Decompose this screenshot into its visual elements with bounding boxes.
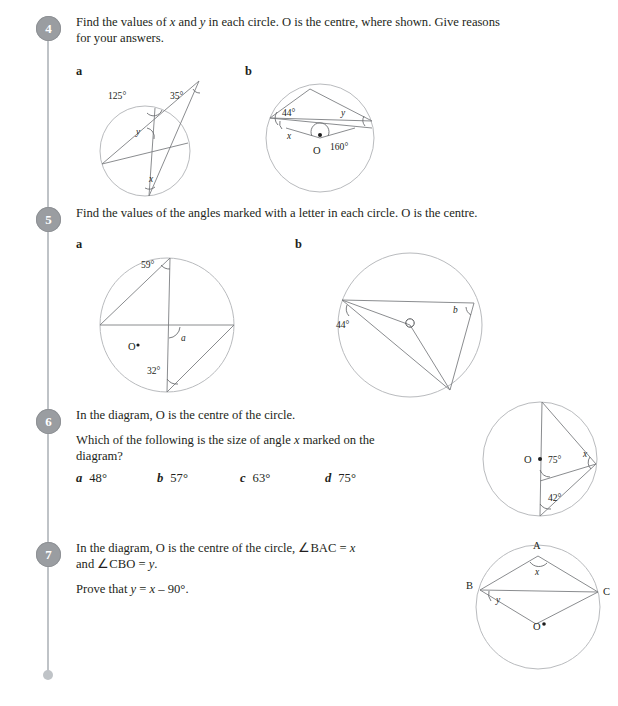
question-4a-label-35: 35° <box>170 90 184 101</box>
question-4b-centre-label: O <box>313 145 321 156</box>
option-d-value: 75° <box>338 471 356 485</box>
option-a-value: 48° <box>89 471 107 485</box>
question-5a-centre-label: O <box>128 341 136 352</box>
option-a-letter: a <box>76 471 82 485</box>
question-6-text-line-2: Which of the following is the size of an… <box>76 432 406 448</box>
question-5-text-line-1: Find the values of the angles marked wit… <box>76 205 576 221</box>
question-7-centre-label: O <box>533 621 541 632</box>
question-7-text-line-1: In the diagram, O is the centre of the c… <box>76 540 406 556</box>
question-7-label-y: y <box>495 595 501 605</box>
question-4-body: Find the values of x and y in each circl… <box>76 14 596 46</box>
question-6-label-x: x <box>582 449 588 459</box>
question-7-diagram: A B C x y O <box>463 527 618 687</box>
question-4b-label-44: 44° <box>282 107 296 118</box>
question-5-body: Find the values of the angles marked wit… <box>76 205 596 221</box>
question-5b-diagram: 44° b <box>322 233 507 413</box>
question-7-point-b: B <box>466 580 473 591</box>
question-5a-label-a: a <box>181 333 186 343</box>
left-rail-end-dot <box>43 670 53 680</box>
question-6-diagram: O 75° x 42° <box>478 391 618 531</box>
option-b[interactable]: b57° <box>157 471 188 486</box>
question-6-number: 6 <box>36 409 61 434</box>
option-c-letter: c <box>240 471 246 485</box>
question-6-label-42: 42° <box>548 492 562 503</box>
question-4b-label-y: y <box>340 108 346 118</box>
question-4-part-b-label: b <box>245 64 252 79</box>
question-7-number: 7 <box>36 542 61 567</box>
worksheet-page: 4 Find the values of x and y in each cir… <box>0 0 618 706</box>
question-7-text-line-3: Prove that y = x – 90°. <box>76 581 406 597</box>
question-6-centre-label: O <box>524 454 532 465</box>
question-7-point-a: A <box>533 540 541 551</box>
question-5a-diagram: 59° a 32° O <box>82 237 262 412</box>
question-4-number: 4 <box>36 16 61 41</box>
question-4-text-line-1: Find the values of x and y in each circl… <box>76 14 576 30</box>
question-5-part-b-label: b <box>295 237 302 252</box>
question-7-point-c: C <box>603 586 610 597</box>
option-b-value: 57° <box>170 471 188 485</box>
question-5a-label-32: 32° <box>147 365 161 376</box>
option-b-letter: b <box>157 471 163 485</box>
question-4a-diagram: 125° 35° y x <box>92 66 242 206</box>
option-c-value: 63° <box>253 471 271 485</box>
option-d[interactable]: d75° <box>325 471 356 486</box>
question-5a-label-59: 59° <box>141 259 155 270</box>
question-4b-label-x: x <box>286 131 292 141</box>
question-4-part-a-label: a <box>76 64 82 79</box>
option-a[interactable]: a48° <box>76 471 107 486</box>
option-c[interactable]: c63° <box>240 471 270 486</box>
option-d-letter: d <box>325 471 331 485</box>
question-7-text-line-2: and ∠CBO = y. <box>76 556 406 572</box>
question-6-label-75: 75° <box>548 454 562 465</box>
question-6-text-line-1: In the diagram, O is the centre of the c… <box>76 407 406 423</box>
left-rail-line <box>47 22 49 677</box>
question-5b-label-44: 44° <box>336 319 350 330</box>
question-6-text-line-3: diagram? <box>76 448 406 464</box>
question-7-label-x: x <box>534 567 540 577</box>
question-5b-label-b: b <box>453 305 458 315</box>
question-5-number: 5 <box>36 207 61 232</box>
question-4a-label-125: 125° <box>108 90 126 101</box>
question-4a-label-y: y <box>135 127 141 137</box>
question-4a-label-x: x <box>148 174 154 184</box>
question-4b-diagram: 44° y x O 160° <box>258 66 403 206</box>
question-4b-label-160: 160° <box>330 141 348 152</box>
question-4-text-line-2: for your answers. <box>76 30 576 46</box>
